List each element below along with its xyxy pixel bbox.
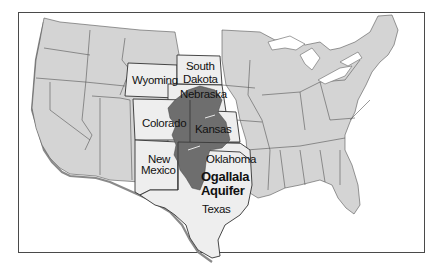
label-aquifer-line2: Aquifer	[201, 184, 244, 198]
label-colorado: Colorado	[142, 117, 186, 129]
label-kansas: Kansas	[195, 123, 232, 135]
label-oklahoma: Oklahoma	[206, 153, 256, 165]
us-map	[0, 0, 438, 271]
label-texas: Texas	[202, 203, 231, 215]
label-aquifer-line1: Ogallala	[201, 170, 249, 184]
label-nebraska: Nebraska	[180, 88, 227, 100]
label-south-dakota-line1: South	[186, 60, 215, 72]
label-south-dakota-line2: Dakota	[183, 73, 218, 85]
label-wyoming: Wyoming	[132, 74, 178, 86]
label-new-mexico-line2: Mexico	[141, 164, 176, 176]
